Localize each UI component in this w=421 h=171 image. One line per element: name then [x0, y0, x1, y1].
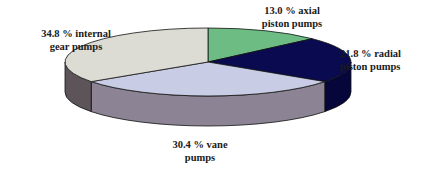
label-line: 30.4 % vane — [150, 138, 250, 151]
label-line: gear pumps — [20, 40, 132, 53]
label-line: 34.8 % internal — [20, 27, 132, 40]
label-axial-piston-pumps: 13.0 % axial piston pumps — [247, 4, 337, 30]
label-vane-pumps: 30.4 % vane pumps — [150, 138, 250, 164]
label-line: pumps — [150, 151, 250, 164]
label-internal-gear-pumps: 34.8 % internal gear pumps — [20, 27, 132, 53]
label-line: piston pumps — [247, 17, 337, 30]
label-radial-piston-pumps: 21.8 % radial piston pumps — [340, 47, 421, 73]
label-line: 13.0 % axial — [247, 4, 337, 17]
label-line: 21.8 % radial — [340, 47, 421, 60]
label-line: piston pumps — [340, 60, 421, 73]
